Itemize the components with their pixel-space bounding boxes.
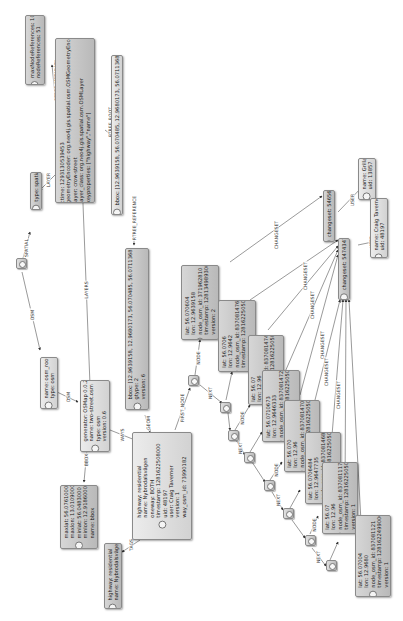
way-node-hub[interactable] <box>228 430 239 441</box>
user-node-craig-taverner[interactable]: name: Craig Taverner uid: 48197 <box>370 198 388 258</box>
rtree-metadata-node[interactable]: maxNodeReferences: 100 nodeReferences: 5… <box>25 15 45 85</box>
node-icon <box>191 378 198 385</box>
node-prop: way_osm_id: 73990182 <box>181 443 187 517</box>
node-icon <box>32 205 40 210</box>
edge-label-osm-dataset: OSM <box>66 391 71 404</box>
way-node[interactable]: highway: residential name: Nybrodalsväge… <box>132 432 192 540</box>
node-icon <box>336 533 344 534</box>
node-icon <box>133 403 141 410</box>
way-node-hub[interactable] <box>244 452 255 463</box>
edge-label-next-2: NEXT <box>238 441 243 455</box>
node-icon <box>375 253 383 258</box>
node-icon <box>231 433 238 440</box>
edge-label-node-4: NODE <box>312 517 317 533</box>
node-icon <box>109 604 117 609</box>
rtree-root-node[interactable]: bbox: [12.9639158, 56.070485, 12.9680173… <box>111 55 123 215</box>
edge-label-changeset-6: CHANGESET <box>336 380 341 410</box>
edge-label-first-node: FIRST_NODE <box>180 393 185 424</box>
edge-label-node-1: NODE <box>196 350 201 366</box>
node-icon <box>91 445 99 452</box>
node-prop: changeset: 5465617 <box>326 190 332 237</box>
tags-node[interactable]: highway: residential name: Nybrodalsväge… <box>104 543 122 609</box>
way-node-hub[interactable] <box>305 535 316 546</box>
node-icon <box>45 402 53 409</box>
edge-label-changeset-2: CHANGESET <box>303 261 308 291</box>
edge-label-bbox: BBOX <box>84 453 89 468</box>
node-icon <box>340 293 348 300</box>
way-node-hub[interactable] <box>283 508 294 519</box>
node-icon <box>19 261 26 268</box>
bounds-node[interactable]: maxlat: 56.0761000 maxlon: 13.0109000 mi… <box>60 485 98 549</box>
node-icon <box>196 337 204 340</box>
node-prop: keyproperties: ["highway","name"] <box>85 38 91 203</box>
node-prop: uid: 13857 <box>367 158 373 189</box>
edge-label-changeset-3: CHANGESET <box>310 290 315 320</box>
edge-label-spatial: SPATIAL <box>24 238 29 258</box>
node-prop: uid: 48197 <box>379 198 385 250</box>
changeset-node-5465617[interactable]: changeset: 5465617 <box>323 190 335 242</box>
node-prop: bbox: [12.9639158, 56.070485, 12.9680173… <box>114 55 120 206</box>
edge-label-ways: WAYS <box>120 428 125 443</box>
edge-label-tags: TAGS <box>129 538 134 552</box>
way-node-hub[interactable] <box>326 560 337 571</box>
way-node-hub[interactable] <box>220 402 231 413</box>
edge-label-changeset-5: CHANGESET <box>324 357 329 387</box>
node-icon <box>233 371 241 372</box>
osm-node-box[interactable]: lat: 56.07004 lon: 12.9680 node_osm_id: … <box>355 515 391 597</box>
reference-hub-node[interactable] <box>16 258 27 269</box>
node-icon <box>223 405 230 412</box>
node-prop: changeset: 5474347 <box>341 238 347 290</box>
edge-label-layer: LAYER <box>46 172 51 188</box>
edge-label-layers: LAYERS <box>84 280 89 299</box>
edge-label-node-3: NODE <box>274 462 279 478</box>
edge-label-changeset-1: CHANGESET <box>274 220 279 250</box>
node-prop: version: 1 <box>383 515 389 588</box>
node-icon <box>369 591 377 597</box>
way-bbox-node[interactable]: bbox: [12.9639158, 12.9680173, 56.070485… <box>125 248 149 410</box>
edge-label-rtree-reference: RTREE_REFERENCE <box>132 195 137 241</box>
edge-label-next-4: NEXT <box>316 550 321 564</box>
node-icon <box>286 511 293 518</box>
node-prop: version: 0.6 <box>101 380 107 442</box>
user-node-grilla[interactable]: name: Grilla uid: 13857 <box>358 158 376 200</box>
node-prop: name: Nybrodalsvägen <box>113 543 119 601</box>
way-node-hub[interactable] <box>188 375 199 386</box>
node-icon <box>113 209 121 215</box>
osm-node-box[interactable]: lat: 56.07 lon: 12.96 node_osm_id: 83708… <box>322 462 358 534</box>
way-node-hub[interactable] <box>264 480 275 491</box>
edge-label-node-2: NODE <box>240 410 245 426</box>
osm-root-node[interactable]: name: osm_root type: osm <box>40 357 58 409</box>
layer-config-node[interactable]: ctime: 1293130539453 geometryEncoder: or… <box>55 38 95 203</box>
edge-label-user-1: USER <box>350 193 355 207</box>
node-prop: name: bbox <box>89 485 95 538</box>
changeset-node-5474347[interactable]: changeset: 5474347 <box>338 238 350 300</box>
node-prop: version: 6 <box>140 248 146 400</box>
osm-node-box[interactable]: lat: 56.070604 lon: 12.9639158 node_osm_… <box>181 265 219 340</box>
node-icon <box>267 483 274 490</box>
node-icon <box>75 541 83 549</box>
node-prop: type: osm <box>49 357 55 399</box>
node-icon <box>31 81 39 85</box>
node-prop: type: spatial <box>33 172 39 202</box>
edge-label-next-3: NEXT <box>276 493 281 507</box>
dataset-node[interactable]: generator: OSMap 0.0.2 name: two-street.… <box>80 380 110 452</box>
edge-label-geom: GEOM <box>146 415 151 431</box>
node-prop: nodeReferences: 51 <box>35 15 41 78</box>
node-icon <box>325 240 333 242</box>
node-icon <box>308 538 315 545</box>
edge-label-next-1: NEXT <box>208 386 213 400</box>
node-icon <box>247 455 254 462</box>
node-icon <box>329 563 336 570</box>
layer-spatial-node[interactable]: type: spatial <box>30 172 42 210</box>
node-prop: version: 2 <box>210 265 216 334</box>
edge-label-osm: OSM <box>30 309 35 322</box>
edge-label-changeset-4: CHANGESET <box>320 330 325 360</box>
node-icon <box>158 521 166 529</box>
